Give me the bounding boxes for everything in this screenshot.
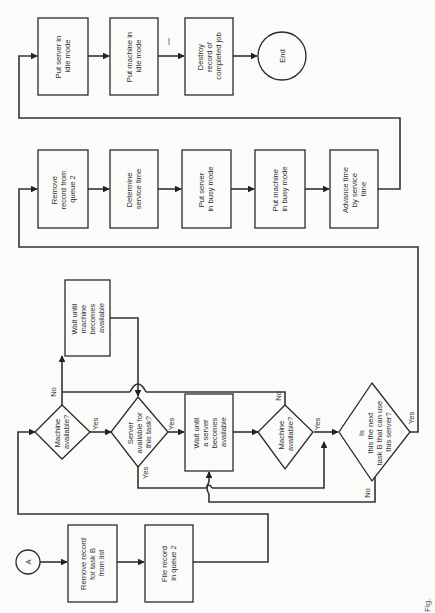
svg-text:Yes: Yes xyxy=(141,467,150,480)
svg-text:End: End xyxy=(278,49,287,63)
node-server-busy: Put server in busy mode xyxy=(182,150,231,228)
node-file-queue2: File record in queue 2 xyxy=(145,525,193,602)
svg-text:Machine available?: Machine available? xyxy=(277,417,295,451)
svg-text:File record in queue 2: File record in queue 2 xyxy=(160,544,178,582)
node-wait-server: Wait until a server becomes available xyxy=(185,394,233,471)
svg-text:Put machine in busy mode: Put machine in busy mode xyxy=(271,166,289,211)
node-server-available: Server available for this task? xyxy=(111,397,168,467)
svg-text:Yes: Yes xyxy=(167,418,176,431)
svg-text:Put server in idle mode: Put server in idle mode xyxy=(54,34,72,79)
node-advance-time: Advance time by service time xyxy=(330,150,378,228)
svg-text:Yes: Yes xyxy=(91,418,100,431)
svg-text:Wait until machine: Wait until machine becomes available xyxy=(70,301,106,334)
node-end-terminal: End xyxy=(258,32,306,80)
svg-text:Yes: Yes xyxy=(407,412,416,425)
flowchart: Put server in idle mode Put machine in i… xyxy=(0,0,435,613)
svg-text:No: No xyxy=(274,391,283,401)
node-machine-idle: Put machine in idle mode xyxy=(110,18,158,95)
node-determine-service: Determine service time xyxy=(110,150,158,228)
svg-text:No: No xyxy=(49,387,58,397)
svg-text:Determine service time: Determine service time xyxy=(125,169,143,210)
node-machine-available-1: Machine available? xyxy=(35,405,90,459)
node-remove-queue2: Remove record from queue 2 xyxy=(38,150,88,228)
svg-text:Put server in busy mode: Put server in busy mode xyxy=(197,166,215,211)
figure-caption: Fig. xyxy=(423,599,432,612)
svg-text:Wait until a server: Wait until a server becomes available xyxy=(192,415,228,448)
node-server-idle: Put server in idle mode xyxy=(38,18,88,95)
node-machine-busy: Put machine in busy mode xyxy=(255,150,305,228)
svg-text:Yes: Yes xyxy=(313,418,322,431)
node-destroy-record: Destroy record of completed job xyxy=(185,18,233,95)
node-remove-task-b: Remove record for task B from list xyxy=(68,525,117,602)
node-connector-a: A xyxy=(16,550,40,574)
svg-text:Machine available?: Machine available? xyxy=(53,415,71,449)
svg-text:No: No xyxy=(363,488,372,498)
node-wait-machine: Wait until machine becomes available xyxy=(65,280,110,356)
node-machine-available-2: Machine available? xyxy=(258,405,313,469)
node-next-task-b: Is this the next task B that can use thi… xyxy=(339,383,410,481)
